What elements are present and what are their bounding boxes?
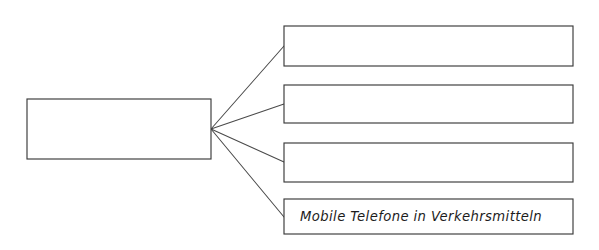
- connector-group: [211, 46, 284, 217]
- child-node-4[interactable]: Mobile Telefone in Verkehrsmitteln: [284, 199, 573, 234]
- connector-line-4: [211, 129, 284, 217]
- child-node-4-label: Mobile Telefone in Verkehrsmitteln: [300, 209, 542, 224]
- root-node[interactable]: [27, 99, 211, 159]
- connector-line-3: [211, 129, 284, 162]
- child-node-3[interactable]: [284, 143, 573, 182]
- diagram-canvas: Mobile Telefone in Verkehrsmitteln: [0, 0, 599, 250]
- child-node-1-box[interactable]: [284, 26, 573, 66]
- child-node-1[interactable]: [284, 26, 573, 66]
- root-node-box[interactable]: [27, 99, 211, 159]
- child-node-3-box[interactable]: [284, 143, 573, 182]
- child-node-2-box[interactable]: [284, 85, 573, 123]
- diagram-svg: Mobile Telefone in Verkehrsmitteln: [0, 0, 599, 250]
- child-node-2[interactable]: [284, 85, 573, 123]
